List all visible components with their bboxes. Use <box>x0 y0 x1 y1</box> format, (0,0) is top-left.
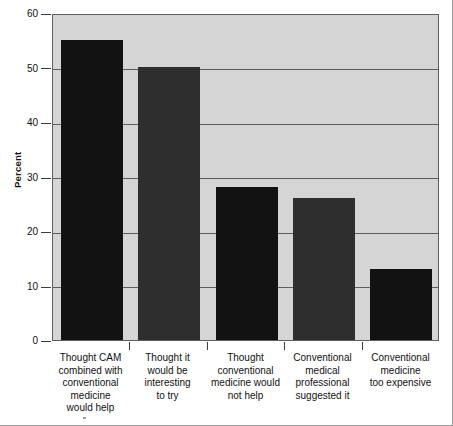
x-label-line: Thought CAM <box>52 352 129 365</box>
x-label-line: interesting <box>129 377 206 390</box>
bar-1 <box>61 40 123 340</box>
x-label-line: conventional <box>52 377 129 390</box>
x-label-line: Conventional <box>284 352 361 365</box>
y-tick-label-50: 50 <box>4 64 38 74</box>
bar-4 <box>293 198 355 340</box>
bar-2 <box>138 67 200 340</box>
x-label-line: would help <box>52 402 129 415</box>
x-label-line: medicine <box>52 390 129 403</box>
x-tick-mark-3 <box>284 342 285 350</box>
plot-area <box>52 14 439 341</box>
y-tick-mark-20 <box>41 232 51 233</box>
x-axis-label-5: Conventionalmedicinetoo expensive <box>362 352 439 390</box>
x-label-line: conventional <box>207 365 284 378</box>
x-axis-label-2: Thought itwould beinterestingto try <box>129 352 206 402</box>
x-tick-mark-1 <box>129 342 130 350</box>
y-tick-mark-60 <box>41 14 51 15</box>
x-axis-label-1: Thought CAMcombined withconventionalmedi… <box>52 352 129 415</box>
bar-5 <box>370 269 432 340</box>
x-label-line: medicine <box>362 365 439 378</box>
x-tick-mark-2 <box>207 342 208 350</box>
x-axis-labels: Thought CAMcombined withconventionalmedi… <box>52 352 439 422</box>
x-axis-label-4: Conventionalmedicalprofessionalsuggested… <box>284 352 361 402</box>
y-tick-label-20: 20 <box>4 227 38 237</box>
bar-chart-figure: Percent 0102030405060 Thought CAMcombine… <box>0 0 453 426</box>
y-tick-mark-10 <box>41 287 51 288</box>
y-tick-mark-40 <box>41 123 51 124</box>
x-label-line: combined with <box>52 365 129 378</box>
x-label-line: suggested it <box>284 390 361 403</box>
y-tick-label-0: 0 <box>4 336 38 346</box>
x-label-line: medicine would <box>207 377 284 390</box>
x-label-line: Thought it <box>129 352 206 365</box>
y-tick-mark-0 <box>41 341 51 342</box>
x-label-line: medical <box>284 365 361 378</box>
x-label-line: not help <box>207 390 284 403</box>
y-axis-title: Percent <box>6 130 28 210</box>
scan-artifact <box>83 417 86 419</box>
y-tick-mark-50 <box>41 68 51 69</box>
x-axis-label-3: Thoughtconventionalmedicine wouldnot hel… <box>207 352 284 402</box>
x-label-line: Conventional <box>362 352 439 365</box>
x-label-line: Thought <box>207 352 284 365</box>
y-tick-label-60: 60 <box>4 9 38 19</box>
bar-3 <box>216 187 278 340</box>
x-label-line: too expensive <box>362 377 439 390</box>
y-tick-label-30: 30 <box>4 173 38 183</box>
x-tick-mark-4 <box>362 342 363 350</box>
y-tick-label-10: 10 <box>4 282 38 292</box>
y-tick-label-40: 40 <box>4 118 38 128</box>
x-label-line: professional <box>284 377 361 390</box>
x-label-line: to try <box>129 390 206 403</box>
y-tick-mark-30 <box>41 178 51 179</box>
x-label-line: would be <box>129 365 206 378</box>
